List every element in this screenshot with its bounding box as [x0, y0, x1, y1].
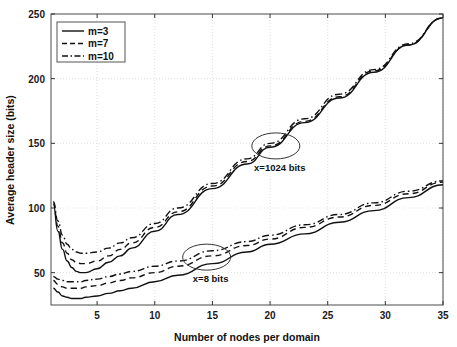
- legend-label-m-10: m=10: [88, 51, 114, 62]
- x-tick-label: 15: [207, 310, 219, 321]
- curve-x-8-bits-m-10: [53, 181, 443, 282]
- legend-label-m-3: m=3: [88, 26, 109, 37]
- x-tick-label: 5: [94, 310, 100, 321]
- annotations: x=1024 bitsx=8 bits: [183, 133, 306, 284]
- y-axis-title: Average header size (bits): [4, 95, 16, 225]
- x-tick-label: 35: [437, 310, 449, 321]
- curve-x-8-bits-m-3: [53, 185, 443, 299]
- annotation-label: x=1024 bits: [254, 162, 306, 173]
- annotation-ellipse: [183, 244, 231, 270]
- x-tick-label: 10: [149, 310, 161, 321]
- line-chart: 510152025303550100150200250 x=1024 bitsx…: [0, 0, 457, 347]
- x-tick-label: 30: [380, 310, 392, 321]
- legend-label-m-7: m=7: [88, 38, 109, 49]
- x-tick-label: 25: [322, 310, 334, 321]
- y-tick-label: 50: [34, 268, 46, 279]
- y-tick-label: 150: [28, 138, 45, 149]
- x-tick-label: 20: [264, 310, 276, 321]
- annotation-label: x=8 bits: [193, 273, 229, 284]
- y-tick-label: 250: [28, 9, 45, 20]
- chart-figure: 510152025303550100150200250 x=1024 bitsx…: [0, 0, 457, 347]
- y-tick-label: 100: [28, 203, 45, 214]
- y-tick-label: 200: [28, 74, 45, 85]
- x-axis-title: Number of nodes per domain: [174, 331, 320, 343]
- legend: m=3m=7m=10: [57, 22, 125, 62]
